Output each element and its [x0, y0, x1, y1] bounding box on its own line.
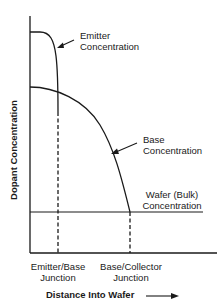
- base-label: Base Concentration: [143, 134, 202, 156]
- base-concentration-curve: [30, 87, 130, 212]
- base-collector-junction-label: Base/Collector Junction: [96, 261, 166, 283]
- emitter-label-line2: Concentration: [80, 41, 139, 52]
- y-axis-label: Dopant Concentration: [8, 100, 19, 200]
- base-collector-label-line2: Junction: [96, 272, 166, 283]
- emitter-label-line1: Emitter: [80, 30, 139, 41]
- emitter-base-label-line1: Emitter/Base: [28, 261, 88, 272]
- base-collector-label-line1: Base/Collector: [96, 261, 166, 272]
- base-label-line1: Base: [143, 134, 202, 145]
- wafer-label: Wafer (Bulk) Concentration: [140, 189, 204, 211]
- distance-arrowhead-icon: [171, 293, 179, 299]
- emitter-base-junction-label: Emitter/Base Junction: [28, 261, 88, 283]
- emitter-concentration-curve: [30, 32, 58, 112]
- base-label-line2: Concentration: [143, 145, 202, 156]
- base-pointer-arrow: [116, 143, 137, 152]
- wafer-label-line2: Concentration: [140, 200, 204, 211]
- emitter-base-label-line2: Junction: [28, 272, 88, 283]
- emitter-label: Emitter Concentration: [80, 30, 139, 52]
- wafer-label-line1: Wafer (Bulk): [140, 189, 204, 200]
- x-axis-label: Distance Into Wafer: [46, 289, 134, 300]
- emitter-arrowhead-icon: [57, 43, 64, 49]
